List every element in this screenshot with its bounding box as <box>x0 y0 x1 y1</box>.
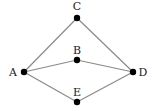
node-label-b: B <box>73 44 81 57</box>
node-e <box>74 99 80 105</box>
node-a <box>21 69 27 75</box>
edge-a-c <box>24 18 77 72</box>
node-c <box>74 15 80 21</box>
node-b <box>74 57 80 63</box>
edge-c-d <box>77 18 133 72</box>
edge-e-d <box>77 72 133 102</box>
edge-a-e <box>24 72 77 102</box>
node-label-c: C <box>73 0 81 13</box>
labels: ABCDE <box>8 0 148 99</box>
edge-b-d <box>77 60 133 72</box>
node-d <box>130 69 136 75</box>
node-label-e: E <box>73 86 81 99</box>
node-label-d: D <box>139 66 148 79</box>
edge-a-b <box>24 60 77 72</box>
graph-diagram: ABCDE <box>0 0 153 111</box>
node-label-a: A <box>8 66 18 79</box>
